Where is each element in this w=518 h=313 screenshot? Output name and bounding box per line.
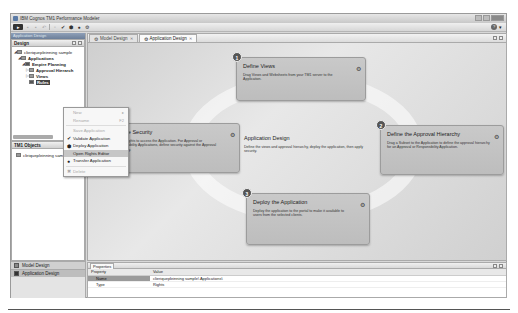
- tm1-objects-panel-title: TM1 Objects: [14, 143, 41, 148]
- horizontal-scrollbar[interactable]: [13, 135, 53, 139]
- tree-item-label: Empire Planning: [32, 62, 66, 67]
- gear-icon: ⚙: [94, 36, 98, 42]
- gear-icon[interactable]: ⚙: [230, 131, 235, 138]
- maximize-button[interactable]: [483, 15, 490, 21]
- menu-separator: [66, 125, 126, 126]
- menu-item-save-application[interactable]: Save Application: [64, 127, 128, 135]
- undo-button[interactable]: ↶: [41, 24, 47, 30]
- step-title: Define the Approval Hierarchy: [387, 131, 498, 137]
- gear-icon[interactable]: ⚙: [356, 65, 361, 72]
- step-description: Drag Views and Websheets from your TM1 s…: [243, 73, 338, 82]
- transfer-button[interactable]: ●: [76, 24, 82, 30]
- minimize-panel-button[interactable]: [493, 264, 497, 268]
- tree-item-label: cliriquepleinning sample: [23, 153, 69, 158]
- menu-item-delete[interactable]: ✖ Delete: [64, 168, 128, 176]
- app-logo-icon: [13, 16, 18, 21]
- transfer-icon: ●: [66, 159, 71, 164]
- minimize-editor-button[interactable]: [493, 36, 497, 40]
- maximize-editor-button[interactable]: [499, 36, 503, 40]
- menu-button[interactable]: ▸: [13, 24, 23, 30]
- editor-area: ⚙ Model Design ✕ ⚙ Application Design ✕ …: [87, 33, 507, 261]
- menu-item-label: Validate Application: [73, 136, 110, 141]
- design-panel-title: Design: [14, 41, 29, 46]
- menu-item-new[interactable]: New ▸: [64, 109, 128, 117]
- design-panel-header: Design: [11, 39, 85, 47]
- title-bar: IBM Cognos TM1 Performance Modeler: [11, 14, 506, 23]
- close-tab-icon[interactable]: ✕: [189, 36, 192, 41]
- step-number-badge: 1: [232, 52, 242, 62]
- tree-item-selected[interactable]: Rules: [13, 79, 83, 85]
- context-menu: New ▸ Rename F2 Save Application ✔ Valid…: [63, 107, 129, 177]
- help-icon[interactable]: ?: [491, 24, 497, 30]
- minimize-button[interactable]: [475, 15, 482, 21]
- close-tab-icon[interactable]: ✕: [130, 36, 133, 41]
- menu-item-transfer-application[interactable]: ● Transfer Application: [64, 157, 128, 165]
- step-title: Define Security: [115, 129, 234, 135]
- toolbar-separator: [49, 24, 50, 30]
- table-row[interactable]: Type Rights: [88, 281, 506, 287]
- open-button[interactable]: ▫: [52, 24, 58, 30]
- folder-icon: [17, 50, 22, 54]
- summary-title: Application Design: [244, 135, 364, 141]
- toolbar-right: ? ▾: [491, 24, 502, 30]
- chevron-down-icon[interactable]: ▾: [499, 24, 502, 30]
- deploy-icon: ⬢: [66, 144, 71, 149]
- gear-icon: ⚙: [144, 36, 148, 42]
- shortcut-label: F2: [119, 118, 124, 123]
- menu-item-label: Deploy Application: [73, 143, 108, 148]
- step-number-badge: 3: [242, 188, 252, 198]
- perspective-tab-application-design[interactable]: Application Design: [11, 269, 85, 277]
- perspective-tab-label: Application Design: [22, 271, 59, 276]
- step-number-badge: 2: [376, 120, 386, 130]
- folder-icon: [29, 68, 34, 72]
- window-title: IBM Cognos TM1 Performance Modeler: [20, 16, 99, 21]
- properties-panel: Properties Property Value Name clierique…: [87, 262, 507, 298]
- application-icon: [25, 62, 30, 66]
- step-description: Deploy the application to the portal to …: [253, 209, 353, 218]
- tree-item-label: Views: [36, 74, 48, 79]
- settings-button[interactable]: ⚙: [84, 24, 90, 30]
- step-description: Drag a Subset to the Application to defi…: [387, 141, 492, 150]
- menu-item-open-rights-editor[interactable]: Open Rights Editor: [64, 150, 128, 158]
- tab-application-design[interactable]: ⚙ Application Design ✕: [139, 34, 197, 42]
- save-all-button[interactable]: ▪: [33, 24, 39, 30]
- maximize-panel-button[interactable]: [499, 264, 503, 268]
- rights-icon: [29, 80, 34, 84]
- menu-separator: [66, 166, 126, 167]
- validate-button[interactable]: ✔: [60, 24, 66, 30]
- menu-item-validate-application[interactable]: ✔ Validate Application: [64, 135, 128, 143]
- close-button[interactable]: [491, 15, 504, 21]
- menu-item-deploy-application[interactable]: ⬢ Deploy Application: [64, 142, 128, 150]
- tab-model-design[interactable]: ⚙ Model Design ✕: [89, 34, 138, 42]
- maximize-panel-button[interactable]: [78, 41, 82, 45]
- minimize-panel-button[interactable]: [72, 41, 76, 45]
- tab-label: Model Design: [100, 36, 128, 41]
- folder-icon: [21, 56, 26, 60]
- gear-icon[interactable]: ⚙: [494, 133, 499, 140]
- server-icon: [16, 153, 21, 157]
- gear-icon[interactable]: ⚙: [360, 201, 365, 208]
- deploy-button[interactable]: ⬢: [68, 24, 74, 30]
- tab-properties[interactable]: Properties: [90, 263, 114, 269]
- step-title: Define Views: [243, 63, 360, 69]
- menu-item-label: New: [73, 110, 82, 115]
- checkmark-icon: ✔: [66, 136, 71, 141]
- menu-item-label: Rename: [73, 118, 89, 123]
- menu-item-label: Save Application: [73, 128, 105, 133]
- menu-item-rename[interactable]: Rename F2: [64, 117, 128, 125]
- menu-item-label: Open Rights Editor: [73, 151, 109, 156]
- tree-item-label: Approval Hierarch: [36, 68, 73, 73]
- submenu-arrow-icon: ▸: [122, 110, 124, 115]
- window-controls: [475, 15, 504, 21]
- step-deploy-application[interactable]: 3 Deploy the Application Deploy the appl…: [246, 193, 370, 245]
- menu-item-label: Transfer Application: [73, 158, 111, 163]
- app-window: IBM Cognos TM1 Performance Modeler ▸ ▪ ▪…: [10, 13, 507, 298]
- property-value[interactable]: Rights: [150, 281, 506, 287]
- perspective-tab-model-design[interactable]: Model Design: [11, 261, 85, 269]
- step-define-views[interactable]: 1 Define Views Drag Views and Websheets …: [236, 57, 366, 101]
- step-define-approval-hierarchy[interactable]: 2 Define the Approval Hierarchy Drag a S…: [380, 125, 504, 175]
- save-button[interactable]: ▪: [25, 24, 31, 30]
- main-toolbar: ▸ ▪ ▪ ↶ ▫ ✔ ⬢ ● ⚙ ? ▾: [11, 23, 506, 32]
- tree-item-label: Rules: [36, 80, 50, 85]
- step-description: Define rights to access the Application.…: [115, 139, 220, 152]
